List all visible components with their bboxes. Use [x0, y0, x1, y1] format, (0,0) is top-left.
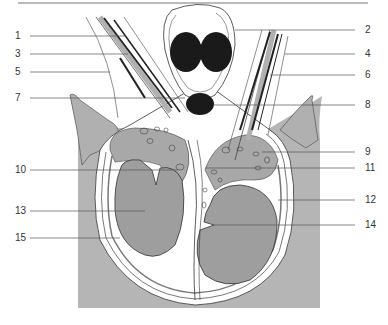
label-11: 11 — [365, 163, 375, 173]
label-15: 15 — [15, 233, 26, 243]
left-corpus-cavernosum — [170, 32, 202, 72]
right-corpus-cavernosum — [200, 32, 232, 72]
label-9: 9 — [365, 147, 371, 157]
label-7: 7 — [15, 93, 21, 103]
label-3: 3 — [15, 49, 21, 59]
anatomical-diagram: 1 3 5 7 10 13 15 2 4 6 8 9 11 12 14 — [0, 0, 388, 325]
label-13: 13 — [15, 206, 26, 216]
label-8: 8 — [365, 100, 371, 110]
label-14: 14 — [365, 220, 376, 230]
label-4: 4 — [365, 49, 371, 59]
label-6: 6 — [365, 70, 371, 80]
label-12: 12 — [365, 195, 376, 205]
diagram-illustration — [0, 0, 388, 325]
label-2: 2 — [365, 25, 371, 35]
label-10: 10 — [15, 165, 26, 175]
corpus-spongiosum — [186, 93, 214, 115]
label-1: 1 — [15, 31, 21, 41]
label-5: 5 — [15, 67, 21, 77]
